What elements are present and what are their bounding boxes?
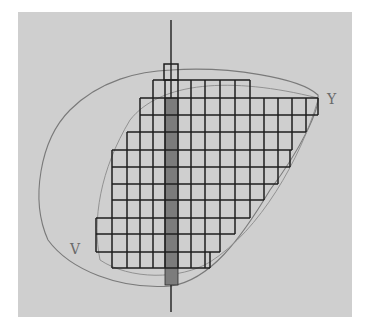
sketch-diagram: Y V [0, 0, 367, 335]
label-y: Y [326, 91, 337, 107]
label-v: V [69, 241, 81, 257]
grid [96, 80, 318, 268]
shaded-bar [165, 98, 178, 285]
inner-outline [97, 85, 318, 275]
